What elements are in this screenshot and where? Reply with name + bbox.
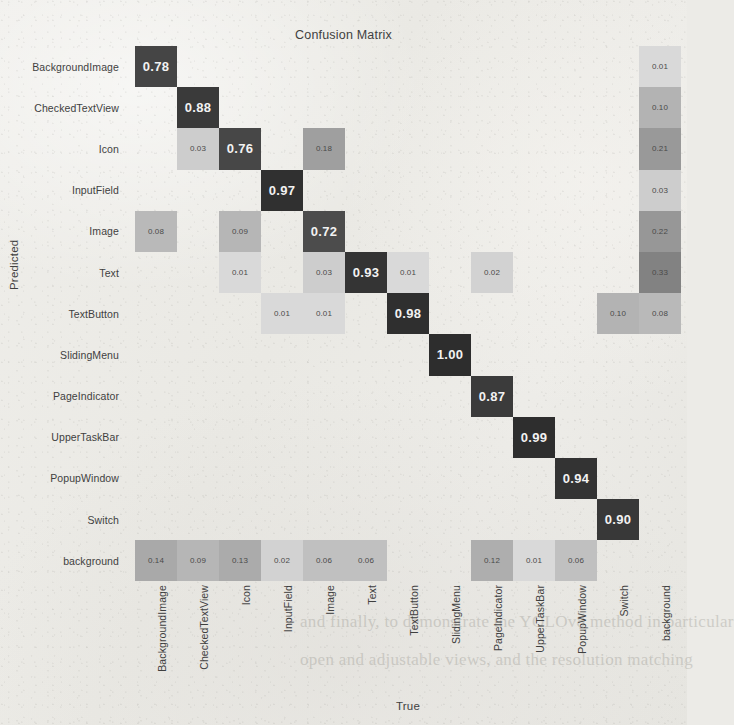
- x-axis-tick-labels: BackgroundImageCheckedTextViewIconInputF…: [135, 585, 681, 681]
- heatmap-cell: 0.22: [639, 211, 681, 252]
- heatmap-cell: [387, 540, 429, 581]
- heatmap-cell: [261, 376, 303, 417]
- heatmap-cell: [513, 211, 555, 252]
- heatmap-cell: [303, 458, 345, 499]
- heatmap-cell: [135, 499, 177, 540]
- heatmap-cell: [387, 128, 429, 169]
- heatmap-cell: [135, 87, 177, 128]
- heatmap-cell: 0.03: [177, 128, 219, 169]
- heatmap-cell: [345, 499, 387, 540]
- heatmap-cell: [177, 46, 219, 87]
- heatmap-cell: [303, 417, 345, 458]
- y-axis-tick-label: Icon: [0, 128, 127, 169]
- heatmap-cell: [177, 499, 219, 540]
- heatmap-cell: [555, 46, 597, 87]
- heatmap-cell: [177, 293, 219, 334]
- heatmap-cell: [135, 252, 177, 293]
- heatmap-cell: [345, 334, 387, 375]
- heatmap-cell: [177, 458, 219, 499]
- heatmap-cell: [513, 252, 555, 293]
- heatmap-cell: 0.33: [639, 252, 681, 293]
- heatmap-cell: [471, 87, 513, 128]
- heatmap-cell: 0.01: [513, 540, 555, 581]
- heatmap-cell: [135, 417, 177, 458]
- heatmap-cell: [429, 293, 471, 334]
- heatmap-cell: 0.13: [219, 540, 261, 581]
- x-axis-tick-label: UpperTaskBar: [513, 585, 555, 681]
- heatmap-cell: [303, 170, 345, 211]
- x-axis-tick-label: InputField: [261, 585, 303, 681]
- heatmap-cell: [513, 458, 555, 499]
- heatmap-cell: [219, 170, 261, 211]
- x-axis-tick-label: SlidingMenu: [429, 585, 471, 681]
- heatmap-cell: [261, 211, 303, 252]
- heatmap-cell: [597, 540, 639, 581]
- heatmap-cell: [135, 376, 177, 417]
- heatmap-cell: [303, 376, 345, 417]
- heatmap-cell: 0.03: [639, 170, 681, 211]
- heatmap-cell: [597, 170, 639, 211]
- heatmap-cell: 0.01: [219, 252, 261, 293]
- heatmap-cell: [177, 211, 219, 252]
- heatmap-cell: [429, 46, 471, 87]
- heatmap-cell: [135, 170, 177, 211]
- heatmap-cell: [639, 499, 681, 540]
- heatmap-cell: [345, 458, 387, 499]
- heatmap-cell: 0.18: [303, 128, 345, 169]
- x-axis-label: True: [135, 700, 681, 712]
- x-axis-tick-label: Icon: [219, 585, 261, 681]
- heatmap-cell: [261, 128, 303, 169]
- heatmap-cell: [345, 170, 387, 211]
- heatmap-cell: [429, 458, 471, 499]
- heatmap-cell: [597, 376, 639, 417]
- x-axis-tick-label: PopupWindow: [555, 585, 597, 681]
- y-axis-tick-label: Image: [0, 211, 127, 252]
- heatmap-cell: 0.97: [261, 170, 303, 211]
- heatmap-cell: [429, 170, 471, 211]
- heatmap-cell: [345, 211, 387, 252]
- heatmap-cell: [261, 334, 303, 375]
- heatmap-cell: [387, 87, 429, 128]
- x-axis-tick-label: Text: [345, 585, 387, 681]
- heatmap-cell: [387, 376, 429, 417]
- heatmap-cell: [177, 417, 219, 458]
- x-axis-tick-label: CheckedTextView: [177, 585, 219, 681]
- heatmap-cell: [513, 499, 555, 540]
- heatmap-cell: [597, 458, 639, 499]
- heatmap-cell: [345, 46, 387, 87]
- heatmap-cell: [345, 128, 387, 169]
- heatmap-cell: [219, 458, 261, 499]
- heatmap-cell: [135, 458, 177, 499]
- heatmap-cell: [135, 293, 177, 334]
- heatmap-cell: [429, 499, 471, 540]
- y-axis-tick-label: UpperTaskBar: [0, 417, 127, 458]
- heatmap-cell: 0.09: [219, 211, 261, 252]
- x-axis-tick-label: background: [639, 585, 681, 681]
- heatmap-cell: [261, 252, 303, 293]
- heatmap-cell: 0.02: [261, 540, 303, 581]
- heatmap-cell: [387, 46, 429, 87]
- heatmap-cell: [177, 334, 219, 375]
- heatmap-cell: 0.88: [177, 87, 219, 128]
- y-axis-tick-label: PageIndicator: [0, 376, 127, 417]
- heatmap-cell: [261, 46, 303, 87]
- heatmap-cell: 0.99: [513, 417, 555, 458]
- heatmap-cell: 0.12: [471, 540, 513, 581]
- y-axis-tick-label: PopupWindow: [0, 458, 127, 499]
- heatmap-cell: 0.76: [219, 128, 261, 169]
- heatmap-cell: [219, 87, 261, 128]
- heatmap-cell: [345, 87, 387, 128]
- heatmap-cell: [555, 376, 597, 417]
- heatmap-cell: 0.03: [303, 252, 345, 293]
- heatmap-cell: [177, 376, 219, 417]
- heatmap-cell: [471, 211, 513, 252]
- heatmap-cell: 0.14: [135, 540, 177, 581]
- heatmap-cell: [303, 46, 345, 87]
- heatmap-cell: 0.06: [555, 540, 597, 581]
- heatmap-cell: [513, 128, 555, 169]
- heatmap-cell: [387, 499, 429, 540]
- heatmap-cell: [387, 458, 429, 499]
- heatmap-cell: [261, 499, 303, 540]
- heatmap-cell: [555, 211, 597, 252]
